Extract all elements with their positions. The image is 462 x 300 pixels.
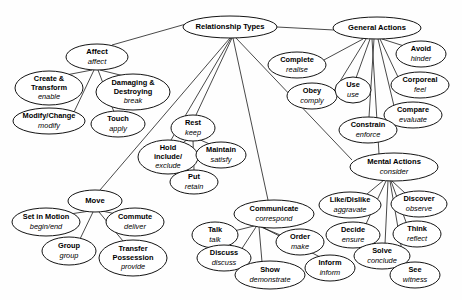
node-text-term: Inform [319, 258, 342, 267]
node-commute[interactable]: Commutedeliver [106, 208, 164, 236]
node-avoid[interactable]: Avoidhinder [396, 41, 446, 67]
node-talk[interactable]: Talktalk [192, 222, 238, 248]
node-corporeal[interactable]: Corporealfeel [391, 72, 449, 98]
node-label-general-actions: General Actions [348, 23, 406, 32]
node-label-move: Move [85, 196, 104, 205]
node-put[interactable]: Putretain [170, 170, 218, 194]
node-text-term: Order [290, 232, 310, 241]
node-text-term: Rest [185, 118, 202, 127]
node-label-relationship-types: Relationship Types [195, 22, 264, 31]
node-text-term: include/ [154, 152, 182, 161]
node-text-gloss: affect [88, 57, 107, 66]
node-complete[interactable]: Completerealise [268, 52, 326, 78]
edge-mental-actions-to-solve [385, 181, 388, 244]
diagram-canvas: Relationship TypesGeneral ActionsAffecta… [0, 0, 462, 300]
node-text-term: Think [407, 224, 428, 233]
node-constrain[interactable]: Constrainenforce [339, 117, 397, 143]
edge-general-actions-to-avoid [382, 39, 404, 46]
edge-mental-actions-to-discover [392, 181, 405, 193]
node-text-term: General Actions [348, 23, 406, 32]
node-label-use: Useuse [346, 80, 360, 98]
node-text-gloss: ensure [342, 235, 365, 244]
node-text-gloss: group [60, 251, 79, 260]
node-text-gloss: conclude [367, 256, 397, 265]
node-modify-change[interactable]: Modify/Changemodify [13, 108, 85, 134]
node-text-gloss: witness [403, 275, 428, 284]
node-text-gloss: modify [38, 121, 61, 130]
node-text-gloss: comply [300, 96, 325, 105]
node-general-actions[interactable]: General Actions [333, 17, 421, 39]
node-text-term: Set in Motion [23, 212, 70, 221]
node-use[interactable]: Useuse [335, 77, 371, 103]
node-text-term: Like/Dislike [330, 195, 371, 204]
node-create-transform[interactable]: Create &Transformenable [15, 71, 83, 105]
edge-communicate-to-discuss [241, 227, 256, 250]
node-label-discover: Discoverobserve [403, 194, 434, 212]
node-text-gloss: retain [185, 182, 204, 191]
node-label-talk: Talktalk [208, 225, 223, 243]
node-text-term: Touch [107, 114, 129, 123]
node-text-term: Talk [208, 225, 223, 234]
node-text-gloss: hinder [411, 54, 432, 63]
node-hold[interactable]: Holdinclude/exclude [138, 140, 198, 174]
node-text-gloss: satisfy [211, 155, 233, 164]
node-text-gloss: begin/end [30, 222, 63, 231]
node-maintain[interactable]: Maintainsatisfy [196, 142, 246, 168]
node-see[interactable]: Seewitness [390, 262, 440, 288]
node-text-term: Commute [118, 212, 152, 221]
node-show[interactable]: Showdemonstrate [235, 261, 305, 289]
node-text-term: Solve [372, 246, 392, 255]
node-text-term: Affect [86, 47, 108, 56]
node-relationship-types[interactable]: Relationship Types [183, 16, 277, 38]
node-damaging-destroying[interactable]: Damaging &Destroyingbreak [96, 74, 170, 110]
node-text-term: Communicate [250, 204, 299, 213]
node-text-term: Obey [303, 86, 322, 95]
node-label-touch: Touchapply [107, 114, 129, 132]
node-label-rest: Restkeep [185, 118, 202, 136]
node-touch[interactable]: Touchapply [91, 111, 145, 137]
node-text-term: Put [188, 172, 200, 181]
edge-general-actions-to-complete [322, 39, 363, 61]
node-text-gloss: make [291, 242, 309, 251]
node-inform[interactable]: Informinform [305, 255, 355, 281]
node-discover[interactable]: Discoverobserve [391, 191, 447, 217]
node-text-term: Create & [34, 74, 65, 83]
ontology-diagram: Relationship TypesGeneral ActionsAffecta… [0, 0, 462, 300]
node-think[interactable]: Thinkreflect [393, 221, 441, 247]
node-label-communicate: Communicatecorrespond [250, 204, 299, 222]
node-communicate[interactable]: Communicatecorrespond [234, 200, 314, 228]
node-set-in-motion[interactable]: Set in Motionbegin/end [12, 208, 80, 236]
node-layer: Relationship TypesGeneral ActionsAffecta… [12, 16, 449, 289]
node-text-term: Discover [403, 194, 434, 203]
node-label-affect: Affectaffect [86, 47, 108, 66]
node-label-order: Ordermake [290, 232, 310, 250]
node-text-gloss: break [124, 96, 143, 105]
edge-relationship-types-to-rest [196, 38, 232, 115]
edge-communicate-to-show [259, 227, 262, 262]
node-label-like-dislike: Like/Dislikeaggravate [330, 195, 371, 213]
node-text-gloss: feel [414, 85, 426, 94]
node-mental-actions[interactable]: Mental Actionsconsider [350, 153, 438, 181]
node-text-gloss: use [347, 90, 359, 99]
node-text-term: Use [346, 80, 360, 89]
node-text-term: Avoid [411, 44, 432, 53]
node-text-term: Discuss [210, 248, 238, 257]
node-rest[interactable]: Restkeep [171, 115, 215, 141]
node-affect[interactable]: Affectaffect [66, 44, 128, 70]
node-text-term: Group [58, 241, 81, 250]
node-move[interactable]: Move [68, 190, 122, 212]
edge-general-actions-to-compare [378, 39, 394, 106]
node-text-term: Compare [397, 105, 429, 114]
edge-general-actions-to-use [356, 39, 370, 78]
node-label-inform: Informinform [319, 258, 342, 276]
node-order[interactable]: Ordermake [276, 229, 324, 255]
node-text-term: Maintain [206, 145, 236, 154]
node-transfer-possession[interactable]: TransferPossessionprovide [99, 240, 167, 276]
node-text-term: Decide [341, 225, 365, 234]
edge-relationship-types-to-general-actions [277, 27, 334, 30]
node-group[interactable]: Groupgroup [42, 237, 96, 265]
node-text-gloss: enforce [356, 130, 381, 139]
node-obey[interactable]: Obeycomply [287, 83, 337, 109]
node-like-dislike[interactable]: Like/Dislikeaggravate [319, 192, 381, 218]
node-text-gloss: talk [209, 235, 221, 244]
